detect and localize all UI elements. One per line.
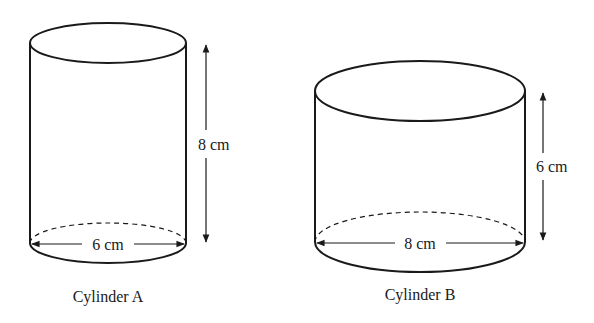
cylinder-a-diameter-label: 6 cm <box>92 236 124 253</box>
cylinder-a-top-face <box>30 23 186 63</box>
cylinder-b-caption: Cylinder B <box>385 286 456 304</box>
cylinder-a-caption: Cylinder A <box>73 288 144 306</box>
cylinder-b: 8 cm 6 cm Cylinder B <box>315 61 568 304</box>
cylinder-b-height-label: 6 cm <box>536 158 568 175</box>
cylinder-a-height-label: 8 cm <box>198 136 230 153</box>
cylinders-diagram: 6 cm 8 cm Cylinder A 8 cm 6 cm Cylinder … <box>0 0 594 323</box>
cylinder-b-top-face <box>315 61 525 121</box>
cylinder-a: 6 cm 8 cm Cylinder A <box>30 23 230 306</box>
cylinder-b-diameter-label: 8 cm <box>404 235 436 252</box>
